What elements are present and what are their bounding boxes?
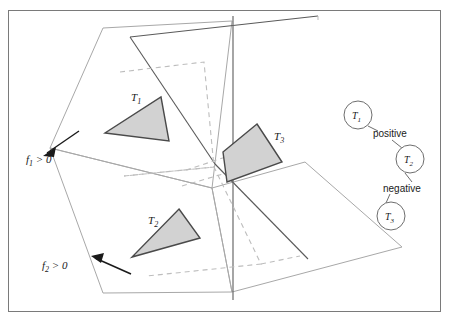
tree-node-T1-sub: 1 xyxy=(358,116,362,124)
tree-edge-label-negative: negative xyxy=(383,183,421,194)
tree-node-T2[interactable] xyxy=(396,145,424,173)
label-f2-rel: > 0 xyxy=(49,259,68,271)
tree-node-T3-sub: 3 xyxy=(390,217,395,225)
bsp-tree-partition-figure: T1 T2 T3 f1 > 0 f2 > 0 T xyxy=(0,0,450,324)
label-T2-sub: 2 xyxy=(154,220,158,229)
tree-node-T3[interactable] xyxy=(377,202,405,230)
tree-node-T2-sub: 2 xyxy=(410,160,414,168)
label-T1-sub: 1 xyxy=(137,97,141,106)
tree-node-T1[interactable] xyxy=(344,101,372,129)
tree-edge-label-positive: positive xyxy=(373,128,407,139)
figure-canvas: T1 T2 T3 f1 > 0 f2 > 0 T xyxy=(0,0,450,324)
label-f1-rel: > 0 xyxy=(33,153,52,165)
label-T3-sub: 3 xyxy=(279,136,284,145)
